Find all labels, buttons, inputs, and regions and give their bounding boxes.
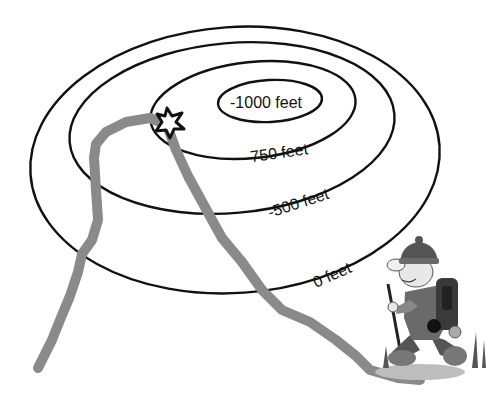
hiking-path bbox=[38, 118, 420, 380]
contour-diagram: -1000 feet -750 feet -500 feet 0 feet bbox=[0, 0, 501, 402]
label-minus-1000-feet: -1000 feet bbox=[230, 94, 303, 111]
label-minus-500-feet: -500 feet bbox=[266, 185, 332, 221]
star-icon bbox=[156, 108, 184, 138]
hiker-illustration bbox=[375, 236, 486, 380]
label-0-feet: 0 feet bbox=[310, 259, 354, 291]
label-minus-750-feet: -750 feet bbox=[244, 140, 309, 166]
contour-lines bbox=[21, 13, 449, 307]
